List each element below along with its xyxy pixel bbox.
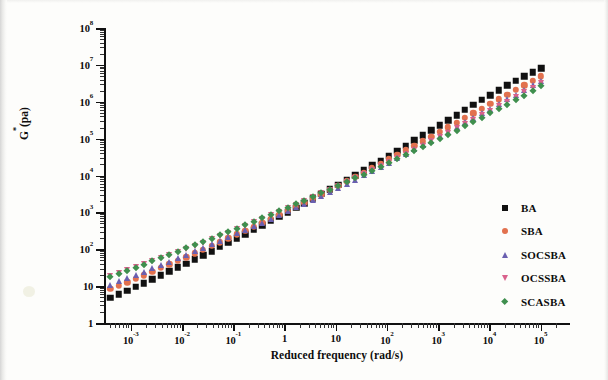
x-tick-label: 10-2 <box>174 333 190 346</box>
data-point <box>495 105 503 113</box>
x-tick-minor <box>279 323 280 328</box>
data-point <box>436 135 444 143</box>
data-point <box>385 159 393 167</box>
data-point <box>334 182 342 190</box>
data-point <box>284 204 292 212</box>
data-point <box>191 241 199 249</box>
data-point <box>537 83 545 91</box>
legend-item-ocssba: OCSSBA <box>498 267 566 291</box>
y-tick-label: 105 <box>80 132 93 145</box>
x-tick-label: 10-3 <box>123 333 139 346</box>
legend-marker-triangle-up-icon <box>498 252 512 258</box>
x-tick-major <box>489 323 491 331</box>
x-tick-minor <box>474 323 475 328</box>
data-point <box>318 190 326 198</box>
data-point <box>216 231 224 239</box>
legend-label: SOCSBA <box>521 249 566 261</box>
x-tick-minor <box>382 323 383 328</box>
scan-artifact-left-edge <box>0 0 7 380</box>
data-point <box>309 193 317 201</box>
x-tick-minor <box>269 323 270 328</box>
x-tick-minor <box>146 323 147 328</box>
x-tick-minor <box>469 323 470 328</box>
scan-artifact-top <box>0 0 608 3</box>
data-point <box>157 254 165 262</box>
x-tick-minor <box>331 323 332 328</box>
x-tick-minor <box>126 323 127 328</box>
x-tick-minor <box>481 323 482 328</box>
x-tick-label: 10 <box>331 333 341 344</box>
x-tick-minor <box>320 323 321 328</box>
x-tick-minor <box>433 323 434 328</box>
legend-marker-square-icon <box>498 205 512 212</box>
x-tick-minor <box>249 323 250 328</box>
x-tick-minor <box>273 323 274 328</box>
y-tick-label: 1 <box>88 318 93 329</box>
x-tick-minor <box>115 323 116 328</box>
data-point <box>258 215 266 223</box>
y-tick-major <box>96 102 104 104</box>
y-tick-label: 102 <box>80 243 93 256</box>
x-tick-minor <box>533 323 534 328</box>
x-tick-major <box>541 323 543 331</box>
y-tick-major <box>96 323 104 325</box>
x-tick-minor <box>536 323 537 328</box>
data-point <box>242 221 250 229</box>
x-tick-minor <box>213 323 214 328</box>
x-tick-minor <box>197 323 198 328</box>
x-tick-minor <box>155 323 156 328</box>
x-tick-minor <box>463 323 464 328</box>
y-tick-label: 10 <box>83 281 93 292</box>
data-point <box>470 118 478 126</box>
x-tick-minor <box>180 323 181 328</box>
x-tick-minor <box>371 323 372 328</box>
x-tick-minor <box>487 323 488 328</box>
x-tick-minor <box>315 323 316 328</box>
x-tick-minor <box>324 323 325 328</box>
legend-label: OCSSBA <box>521 272 566 284</box>
x-tick-minor <box>277 323 278 328</box>
y-tick-major <box>96 286 104 288</box>
x-tick-minor <box>360 323 361 328</box>
legend-marker-circle-icon <box>498 228 512 234</box>
data-point <box>529 87 537 95</box>
y-tick-label: 103 <box>80 206 93 219</box>
data-point <box>123 267 131 275</box>
x-tick-minor <box>282 323 283 328</box>
x-tick-minor <box>264 323 265 328</box>
x-tick-minor <box>436 323 437 328</box>
x-tick-minor <box>110 323 111 328</box>
legend-item-sba: SBA <box>498 220 566 244</box>
data-point <box>250 218 258 226</box>
legend-marker-triangle-down-icon <box>498 275 512 281</box>
x-tick-minor <box>228 323 229 328</box>
data-point <box>478 114 486 122</box>
x-tick-label: 104 <box>483 333 496 346</box>
legend-label: BA <box>521 202 537 214</box>
x-tick-label: 102 <box>380 333 393 346</box>
y-tick-major <box>96 65 104 67</box>
data-point <box>410 147 418 155</box>
x-tick-minor <box>538 323 539 328</box>
legend-item-socsba: SOCSBA <box>498 243 566 267</box>
x-tick-minor <box>119 323 120 328</box>
y-tick-major <box>96 28 104 30</box>
x-tick-minor <box>484 323 485 328</box>
x-tick-minor <box>520 323 521 328</box>
x-tick-minor <box>300 323 301 328</box>
x-tick-minor <box>556 323 557 328</box>
y-tick-label: 107 <box>80 59 93 72</box>
data-point <box>107 273 115 281</box>
data-point <box>394 155 402 163</box>
x-tick-label: 103 <box>431 333 444 346</box>
x-tick-minor <box>379 323 380 328</box>
x-tick-major <box>336 323 338 331</box>
data-point <box>115 270 123 278</box>
data-point <box>444 131 452 139</box>
x-tick-minor <box>258 323 259 328</box>
data-point <box>140 261 148 269</box>
data-point <box>419 143 427 151</box>
x-tick-minor <box>423 323 424 328</box>
y-tick-label: 104 <box>80 169 93 182</box>
x-tick-minor <box>505 323 506 328</box>
